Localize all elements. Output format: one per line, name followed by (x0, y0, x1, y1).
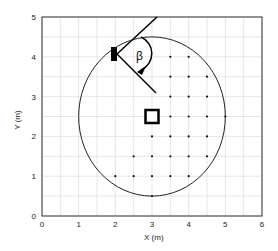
data-point (151, 175, 153, 177)
x-tick-label: 5 (223, 220, 228, 229)
x-tick-label: 0 (40, 220, 45, 229)
scatter-chart: 0123456012345 β X (m) Y (m) (0, 0, 278, 251)
data-point (206, 135, 208, 137)
beta-label: β (136, 49, 143, 63)
data-point (188, 155, 190, 157)
data-point (206, 155, 208, 157)
data-point (188, 175, 190, 177)
x-tick-label: 3 (150, 220, 155, 229)
data-point (133, 175, 135, 177)
data-point (206, 76, 208, 78)
square-marker (146, 110, 159, 123)
data-point (169, 96, 171, 98)
data-point (169, 175, 171, 177)
data-point (169, 76, 171, 78)
y-axis-label: Y (m) (13, 110, 22, 130)
data-point (151, 135, 153, 137)
y-tick-label: 5 (32, 13, 37, 22)
arrow-head (137, 66, 146, 75)
x-tick-label: 1 (76, 220, 81, 229)
data-point (188, 115, 190, 117)
data-point (133, 155, 135, 157)
data-point (188, 135, 190, 137)
data-point (188, 96, 190, 98)
x-tick-label: 2 (113, 220, 118, 229)
y-tick-label: 3 (32, 93, 37, 102)
y-tick-label: 1 (32, 172, 37, 181)
data-point (206, 115, 208, 117)
data-point (206, 96, 208, 98)
data-point (188, 56, 190, 58)
data-point (188, 76, 190, 78)
data-point (169, 135, 171, 137)
data-point (151, 155, 153, 157)
y-tick-label: 2 (32, 132, 37, 141)
data-point (169, 155, 171, 157)
data-point (169, 115, 171, 117)
x-tick-label: 6 (260, 220, 265, 229)
y-tick-label: 0 (32, 212, 37, 221)
x-tick-label: 4 (186, 220, 191, 229)
y-tick-label: 4 (32, 53, 37, 62)
x-axis-label: X (m) (144, 233, 164, 242)
data-point (114, 175, 116, 177)
data-point (169, 56, 171, 58)
source-marker (111, 47, 117, 61)
